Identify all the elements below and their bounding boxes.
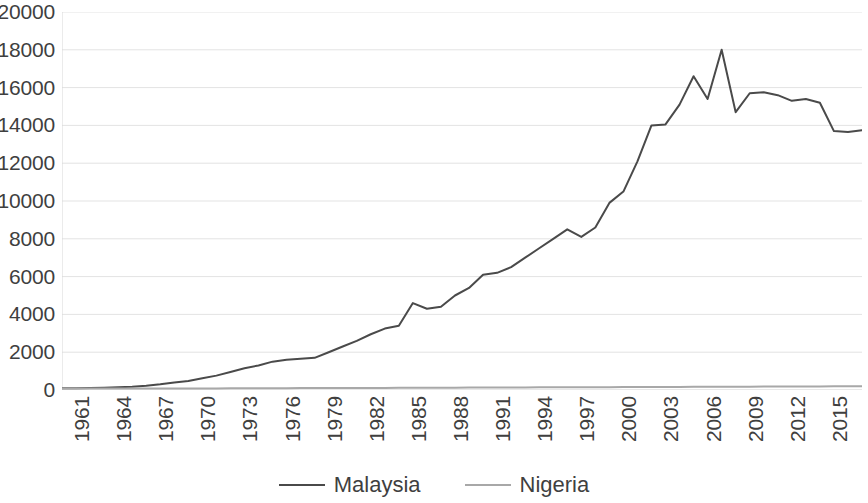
y-axis-tick-label: 20000	[0, 1, 55, 22]
y-axis-tick-label: 6000	[9, 266, 55, 287]
x-axis-tick-label: 2000	[618, 396, 639, 442]
x-axis-tick-label: 2009	[745, 396, 766, 442]
x-axis-tick-label: 1976	[282, 396, 303, 442]
x-axis-tick-label: 1982	[366, 396, 387, 442]
y-axis-tick-label: 12000	[0, 152, 55, 173]
x-axis-tick-label: 2003	[660, 396, 681, 442]
x-axis-tick-label: 1970	[197, 396, 218, 442]
x-axis-tick-label: 1979	[324, 396, 345, 442]
legend-line-swatch	[279, 484, 325, 486]
x-axis-tick-label: 1988	[450, 396, 471, 442]
legend-label: Nigeria	[520, 474, 590, 496]
x-axis-tick-label: 1961	[71, 396, 92, 442]
plot-area	[62, 12, 862, 390]
legend-item[interactable]: Nigeria	[465, 474, 590, 496]
x-axis: 1961196419671970197319761979198219851988…	[0, 396, 868, 466]
x-axis-tick-label: 1991	[492, 396, 513, 442]
x-axis-tick-label: 1973	[239, 396, 260, 442]
y-axis-tick-label: 18000	[0, 39, 55, 60]
x-axis-tick-label: 2015	[829, 396, 850, 442]
series-line-nigeria	[62, 386, 862, 388]
legend-line-swatch	[465, 484, 511, 486]
y-axis-tick-label: 16000	[0, 77, 55, 98]
y-axis-tick-label: 10000	[0, 190, 55, 211]
y-axis-tick-label: 2000	[9, 341, 55, 362]
x-axis-tick-label: 2006	[703, 396, 724, 442]
x-axis-tick-label: 1985	[408, 396, 429, 442]
x-axis-tick-label: 2012	[787, 396, 808, 442]
line-chart: 0200040006000800010000120001400016000180…	[0, 0, 868, 503]
chart-legend: MalaysiaNigeria	[0, 468, 868, 502]
legend-label: Malaysia	[334, 474, 421, 496]
legend-item[interactable]: Malaysia	[279, 474, 421, 496]
x-axis-tick-label: 1967	[155, 396, 176, 442]
y-axis-tick-label: 4000	[9, 303, 55, 324]
plot-svg	[62, 12, 862, 390]
y-axis: 0200040006000800010000120001400016000180…	[0, 0, 55, 400]
x-axis-tick-label: 1997	[576, 396, 597, 442]
y-axis-tick-label: 8000	[9, 228, 55, 249]
x-axis-tick-label: 1964	[113, 396, 134, 442]
x-axis-tick-label: 1994	[534, 396, 555, 442]
y-axis-tick-label: 14000	[0, 114, 55, 135]
series-line-malaysia	[62, 50, 862, 389]
